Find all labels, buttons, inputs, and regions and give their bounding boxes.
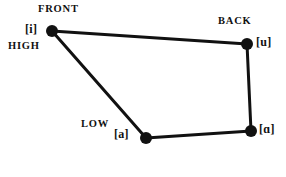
edge-alpha-a: [146, 131, 251, 138]
vowel-label-a: [a]: [114, 128, 129, 140]
vowel-quadrilateral-svg: [0, 0, 286, 177]
vowel-label-u: [u]: [256, 36, 272, 48]
vertex-dot-i: [46, 25, 58, 37]
vertex-dot-a: [140, 132, 152, 144]
vertex-dot-alpha: [245, 125, 257, 137]
vowel-quadrilateral-diagram: FRONT BACK HIGH LOW [i] [u] [a] [ɑ]: [0, 0, 286, 177]
vowel-label-alpha: [ɑ]: [259, 123, 275, 135]
vertex-dot-u: [241, 38, 253, 50]
edge-u-alpha: [247, 44, 251, 131]
vowel-label-i: [i]: [25, 23, 37, 35]
edge-i-u: [52, 31, 247, 44]
axis-label-back: BACK: [218, 16, 252, 27]
axis-label-low: LOW: [81, 119, 109, 130]
axis-label-high: HIGH: [8, 41, 40, 52]
axis-label-front: FRONT: [38, 4, 79, 15]
